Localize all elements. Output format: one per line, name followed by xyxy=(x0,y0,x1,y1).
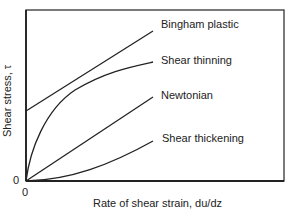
curve-newtonian xyxy=(26,97,153,181)
y-zero-tick: 0 xyxy=(13,175,19,186)
label-shear-thickening: Shear thickening xyxy=(162,133,244,144)
label-newtonian: Newtonian xyxy=(161,90,213,101)
curve-shear-thickening xyxy=(26,141,153,181)
x-axis-label: Rate of shear strain, du/dz xyxy=(93,198,222,209)
chart-canvas xyxy=(0,0,291,214)
curve-shear-thinning xyxy=(26,62,153,181)
curve-bingham-plastic xyxy=(26,31,153,111)
y-axis-label: Shear stress, τ xyxy=(2,65,13,137)
label-bingham-plastic: Bingham plastic xyxy=(161,19,239,30)
x-zero-tick: 0 xyxy=(22,187,28,198)
label-shear-thinning: Shear thinning xyxy=(161,55,232,66)
